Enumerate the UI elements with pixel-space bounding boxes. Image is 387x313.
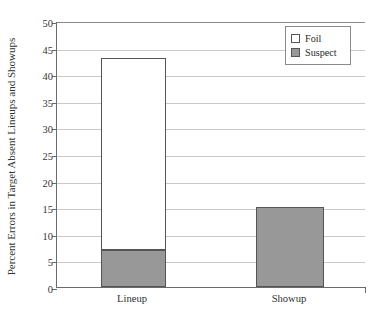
y-tick-label: 10 <box>43 230 53 241</box>
x-axis-end-tick <box>365 287 366 293</box>
y-tick-label: 5 <box>48 257 53 268</box>
bar-chart-figure: Percent Errors in Target Absent Lineups … <box>0 0 387 313</box>
y-tick-label: 30 <box>43 124 53 135</box>
y-tick-label: 20 <box>43 177 53 188</box>
y-tick-label: 45 <box>43 44 53 55</box>
y-tick-label: 35 <box>43 97 53 108</box>
legend-item-foil: Foil <box>291 32 345 45</box>
y-tick-label: 50 <box>43 18 53 29</box>
legend-swatch-foil <box>291 34 300 43</box>
y-tick-label: 25 <box>43 151 53 162</box>
y-tick-label: 0 <box>48 284 53 295</box>
y-axis-title: Percent Errors in Target Absent Lineups … <box>0 0 22 313</box>
legend: Foil Suspect <box>285 26 351 65</box>
legend-swatch-suspect <box>291 48 300 57</box>
bar-lineup-suspect <box>101 250 166 287</box>
x-axis-label-lineup: Lineup <box>117 293 147 304</box>
y-tick-label: 15 <box>43 204 53 215</box>
legend-label-suspect: Suspect <box>305 47 337 58</box>
bar-lineup-foil <box>101 58 166 250</box>
bar-showup-suspect <box>256 207 324 287</box>
legend-item-suspect: Suspect <box>291 46 345 59</box>
legend-label-foil: Foil <box>305 33 321 44</box>
x-axis-label-showup: Showup <box>272 293 307 304</box>
y-tick-label: 40 <box>43 71 53 82</box>
